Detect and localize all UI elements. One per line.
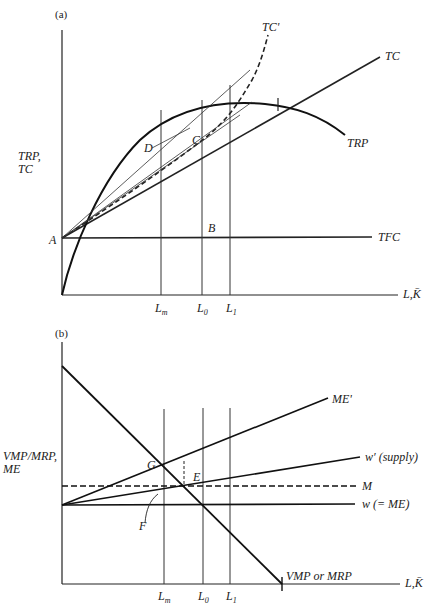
trp-label: TRP (347, 136, 369, 150)
tc-line (62, 57, 380, 238)
svg-text:Lm: Lm (154, 301, 168, 317)
me-prime-line (62, 398, 328, 505)
svg-text:L0: L0 (196, 301, 208, 317)
panel-a-x-ticks: Lm L0 L1 (154, 301, 237, 317)
svg-text:L0: L0 (197, 589, 209, 605)
panel-b-y-label-2: ME (2, 462, 21, 476)
labor-market-diagram: (a) TC' TC TRP TFC TRP, TC A B C D L,K̄ (0, 0, 430, 614)
point-d-label: D (143, 141, 153, 155)
panel-a-x-label: L,K̄ (402, 287, 422, 301)
w-prime-label: w′ (supply) (365, 450, 418, 464)
w-prime-line (62, 457, 360, 505)
tfc-label: TFC (378, 230, 401, 244)
tangent-line-2 (62, 102, 252, 238)
panel-b-x-label: L,K̄ (404, 576, 424, 590)
w-line (62, 504, 355, 505)
panel-b-y-label-1: VMP/MRP, (3, 449, 57, 463)
panel-b-tag: (b) (55, 327, 68, 340)
tc-prime-label: TC' (262, 20, 280, 34)
point-a-label: A (48, 233, 57, 247)
svg-text:L1: L1 (225, 589, 237, 605)
panel-a-y-label-1: TRP, (18, 149, 41, 163)
point-g-label: G (147, 458, 156, 472)
vmp-label: VMP or MRP (286, 569, 352, 583)
point-e-label: E (192, 470, 201, 484)
tfc-line (62, 237, 372, 238)
trp-curve (62, 103, 345, 295)
panel-a-tag: (a) (55, 8, 68, 21)
point-b-label: B (208, 221, 216, 235)
f-pointer (145, 494, 158, 523)
m-label: M (361, 479, 373, 493)
tangent-line-3 (62, 115, 240, 238)
tangent-d (152, 128, 190, 148)
w-label: w (= ME) (362, 497, 409, 511)
tc-label: TC (385, 49, 401, 63)
point-f-label: F (138, 519, 147, 533)
point-c-label: C (192, 133, 201, 147)
tangent-line-1 (62, 70, 250, 238)
panel-a: (a) TC' TC TRP TFC TRP, TC A B C D L,K̄ (18, 8, 422, 317)
me-prime-label: ME' (331, 392, 352, 406)
svg-text:Lm: Lm (157, 589, 171, 605)
svg-text:L1: L1 (225, 301, 237, 317)
panel-b-x-ticks: Lm L0 L1 (157, 589, 237, 605)
panel-b: (b) ME' w′ (supply) M w (= ME) VMP or MR… (2, 327, 424, 605)
panel-a-y-label-2: TC (18, 162, 34, 176)
